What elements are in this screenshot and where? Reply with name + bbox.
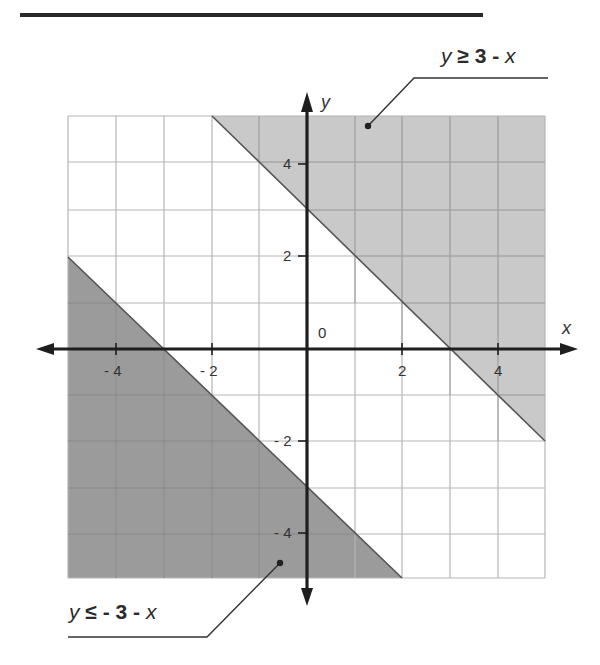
label-lower-inequality: y ≤ - 3 - x [69, 600, 156, 624]
x-tick-label-minus-2: - 2 [200, 362, 218, 379]
lower-ineq-op: ≤ [85, 600, 97, 623]
lower-ineq-var2: x [146, 600, 157, 623]
y-tick-label-minus-2: - 2 [274, 432, 292, 449]
x-tick-label-minus-4: - 4 [104, 362, 122, 379]
y-tick-label-4: 4 [283, 155, 291, 172]
lower-ineq-var: y [69, 600, 80, 623]
upper-ineq-rest: 3 - [469, 44, 505, 67]
x-tick-label-4: 4 [494, 362, 502, 379]
y-tick-label-2: 2 [283, 247, 291, 264]
label-upper-inequality: y ≥ 3 - x [441, 44, 516, 68]
origin-label: 0 [318, 324, 326, 341]
y-axis-label: y [321, 92, 330, 113]
y-axis-down-arrow-icon [301, 588, 313, 606]
x-axis-left-arrow-icon [36, 343, 54, 355]
x-axis-right-arrow-icon [560, 343, 578, 355]
upper-ineq-var2: x [505, 44, 516, 67]
y-tick-label-minus-4: - 4 [274, 524, 292, 541]
upper-ineq-var: y [441, 44, 452, 67]
upper-ineq-op: ≥ [457, 44, 469, 67]
inequality-graph [0, 0, 600, 665]
lower-ineq-rest: - 3 - [97, 600, 146, 623]
x-tick-label-2: 2 [398, 362, 406, 379]
y-axis-up-arrow-icon [301, 92, 313, 112]
x-axis-label: x [562, 318, 571, 339]
